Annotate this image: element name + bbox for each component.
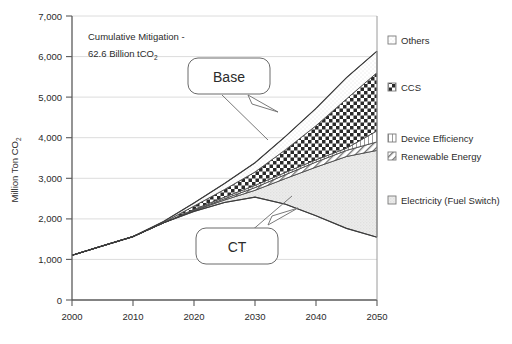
- legend-label-renewable-energy: Renewable Energy: [401, 151, 482, 162]
- y-tick-label: 7,000: [38, 11, 62, 22]
- legend-label-device-efficiency: Device Efficiency: [401, 133, 473, 144]
- svg-text:Million Ton CO2: Million Ton CO2: [9, 137, 22, 203]
- x-tick-label: 2010: [122, 311, 143, 322]
- callout-ct-tail: [268, 208, 298, 225]
- legend-swatch-electricity-fuel-switch: [388, 196, 396, 204]
- callout-ct-label: CT: [228, 239, 247, 255]
- annotation-subscript: 2: [154, 54, 158, 61]
- y-tick-label: 1,000: [38, 254, 62, 265]
- y-tick-labels: 0 1,000 2,000 3,000 4,000 5,000 6,000 7,…: [38, 11, 62, 306]
- y-axis-title-subscript: 2: [15, 137, 22, 141]
- svg-text:62.6 Billion tCO2: 62.6 Billion tCO2: [88, 48, 158, 61]
- x-tick-label: 2050: [366, 311, 387, 322]
- annotation-line-1: Cumulative Mitigation -: [88, 31, 185, 42]
- y-tick-label: 4,000: [38, 132, 62, 143]
- x-axis-ticks: [72, 300, 377, 306]
- legend-label-others: Others: [401, 35, 430, 46]
- legend-item-electricity-fuel-switch[interactable]: Electricity (Fuel Switch): [388, 195, 500, 206]
- y-axis-title-text: Million Ton CO: [9, 141, 20, 203]
- callout-base-label: Base: [213, 69, 245, 85]
- y-tick-label: 0: [57, 295, 62, 306]
- y-tick-label: 5,000: [38, 92, 62, 103]
- legend-item-device-efficiency[interactable]: Device Efficiency: [388, 133, 473, 144]
- legend-swatch-device-efficiency: [388, 134, 396, 142]
- legend: Others CCS Device Efficiency Renewable E…: [388, 35, 500, 206]
- emissions-wedge-chart: 0 1,000 2,000 3,000 4,000 5,000 6,000 7,…: [0, 0, 512, 344]
- legend-swatch-renewable-energy: [388, 152, 396, 160]
- y-tick-label: 2,000: [38, 213, 62, 224]
- annotation-line-2: 62.6 Billion tCO: [88, 48, 154, 59]
- callout-base-tail-2: [222, 95, 268, 140]
- x-tick-labels: 2000 2010 2020 2030 2040 2050: [61, 311, 387, 322]
- y-axis-ticks: [66, 16, 72, 300]
- legend-item-ccs[interactable]: CCS: [388, 82, 421, 93]
- y-tick-label: 6,000: [38, 51, 62, 62]
- x-tick-label: 2040: [305, 311, 326, 322]
- x-tick-label: 2020: [183, 311, 204, 322]
- x-tick-label: 2000: [61, 311, 82, 322]
- legend-item-renewable-energy[interactable]: Renewable Energy: [388, 151, 482, 162]
- callout-base[interactable]: Base: [188, 58, 278, 140]
- legend-swatch-others: [388, 36, 396, 44]
- legend-item-others[interactable]: Others: [388, 35, 430, 46]
- legend-swatch-ccs: [388, 83, 396, 91]
- x-tick-label: 2030: [244, 311, 265, 322]
- y-tick-label: 3,000: [38, 173, 62, 184]
- chart-container: 0 1,000 2,000 3,000 4,000 5,000 6,000 7,…: [0, 0, 512, 344]
- y-axis-title: Million Ton CO2: [9, 137, 22, 203]
- legend-label-electricity-fuel-switch: Electricity (Fuel Switch): [401, 195, 500, 206]
- legend-label-ccs: CCS: [401, 82, 421, 93]
